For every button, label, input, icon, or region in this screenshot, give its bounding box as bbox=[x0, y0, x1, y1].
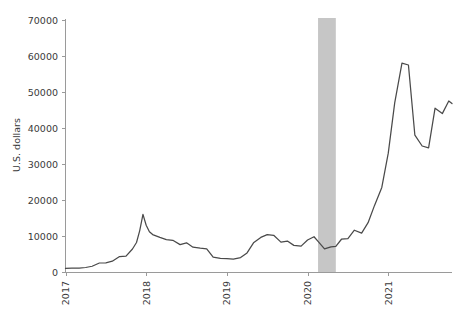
x-tick-label: 2019 bbox=[221, 281, 232, 305]
y-tick-label: 70000 bbox=[28, 15, 58, 26]
y-tick-label: 60000 bbox=[28, 51, 58, 62]
y-axis-title-label: U.S. dollars bbox=[11, 118, 22, 172]
y-tick-label: 10000 bbox=[28, 231, 58, 242]
y-tick-label: 0 bbox=[52, 267, 58, 278]
x-tick-label: 2018 bbox=[141, 281, 152, 305]
y-tick-label: 30000 bbox=[28, 159, 58, 170]
line-chart: 010000200003000040000500006000070000 201… bbox=[0, 0, 457, 317]
chart-background bbox=[0, 0, 457, 317]
recession-band-group bbox=[318, 18, 336, 272]
y-axis-title: U.S. dollars bbox=[11, 118, 22, 172]
y-tick-label: 50000 bbox=[28, 87, 58, 98]
x-tick-label: 2017 bbox=[60, 281, 71, 305]
y-tick-label: 40000 bbox=[28, 123, 58, 134]
recession-band bbox=[318, 18, 336, 272]
chart-container: 010000200003000040000500006000070000 201… bbox=[0, 0, 457, 317]
y-tick-label: 20000 bbox=[28, 195, 58, 206]
x-tick-label: 2020 bbox=[302, 281, 313, 305]
x-tick-label: 2021 bbox=[383, 281, 394, 305]
